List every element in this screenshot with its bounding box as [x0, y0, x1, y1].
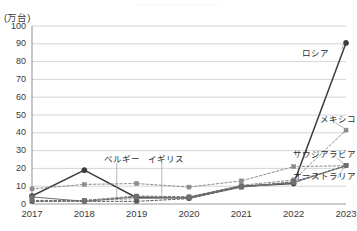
series-label: ベルギー — [104, 155, 140, 164]
x-tick-label: 2018 — [64, 209, 104, 219]
series-label: サウジアラビア — [293, 150, 356, 159]
data-point — [344, 128, 348, 132]
data-point — [343, 40, 348, 45]
series-label: イギリス — [148, 155, 184, 164]
plot-area — [0, 0, 357, 231]
y-tick-label: 40 — [0, 128, 26, 137]
y-tick-label: 20 — [0, 164, 26, 173]
data-point — [135, 199, 139, 203]
data-point — [239, 179, 243, 183]
x-tick-label: 2017 — [12, 209, 52, 219]
data-point — [82, 199, 86, 203]
data-point — [187, 196, 191, 200]
series-line — [32, 130, 346, 201]
data-point — [30, 195, 34, 199]
data-point — [82, 182, 86, 186]
y-tick-label: 50 — [0, 111, 26, 120]
line-chart: ⋯⋯⋯⋯⋯⋯⋯⋯⋯⋯⋯⋯ (万台) 0102030405060708090100… — [0, 0, 357, 231]
data-point — [135, 182, 139, 186]
x-tick-label: 2022 — [274, 209, 314, 219]
data-point — [292, 165, 296, 169]
data-point — [82, 168, 87, 173]
y-tick-label: 70 — [0, 75, 26, 84]
data-point — [30, 187, 34, 191]
x-tick-label: 2020 — [169, 209, 209, 219]
y-tick-label: 80 — [0, 57, 26, 66]
y-tick-label: 90 — [0, 39, 26, 48]
x-tick-label: 2021 — [221, 209, 261, 219]
series-label: ロシア — [302, 49, 329, 58]
data-point — [187, 185, 191, 189]
series-label: オーストラリア — [293, 172, 356, 181]
y-tick-label: 100 — [0, 22, 26, 31]
y-tick-label: 30 — [0, 146, 26, 155]
x-tick-label: 2023 — [326, 209, 357, 219]
series-label: メキシコ — [320, 115, 356, 124]
data-point — [344, 164, 348, 168]
x-tick-label: 2019 — [117, 209, 157, 219]
data-point — [239, 185, 243, 189]
series-5 — [30, 164, 348, 204]
data-point — [135, 195, 139, 199]
y-tick-label: 10 — [0, 182, 26, 191]
y-tick-label: 60 — [0, 93, 26, 102]
